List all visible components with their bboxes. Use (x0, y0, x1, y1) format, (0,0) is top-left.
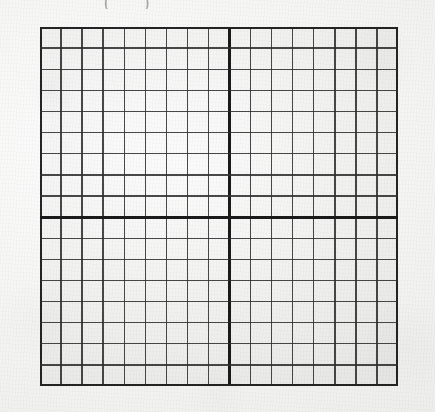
grid-line-vertical (355, 27, 356, 386)
grid-border-top (40, 27, 398, 29)
grid-line-vertical (271, 27, 272, 386)
grid-line-horizontal (40, 69, 398, 70)
x-axis-line (40, 216, 398, 219)
grid-line-horizontal (40, 322, 398, 323)
grid-border-bottom (40, 384, 398, 386)
grid-line-horizontal (40, 280, 398, 281)
grid-line-horizontal (40, 111, 398, 112)
grid-line-vertical (334, 27, 335, 386)
grid-line-vertical (313, 27, 314, 386)
grid-line-horizontal (40, 301, 398, 302)
grid-line-vertical (292, 27, 293, 386)
grid-line-vertical (124, 27, 125, 386)
grid-line-vertical (145, 27, 146, 386)
grid-line-horizontal (40, 343, 398, 344)
coordinate-grid-lines (40, 27, 398, 386)
grid-line-horizontal (40, 90, 398, 91)
grid-line-horizontal (40, 132, 398, 133)
grid-line-horizontal (40, 238, 398, 239)
grid-line-vertical (81, 27, 82, 386)
grid-border-left (40, 27, 42, 386)
grid-line-vertical (250, 27, 251, 386)
grid-line-horizontal (40, 47, 398, 48)
grid-line-horizontal (40, 259, 398, 260)
grid-line-horizontal (40, 153, 398, 154)
grid-line-vertical (60, 27, 61, 386)
grid-line-vertical (102, 27, 103, 386)
coordinate-grid[interactable] (40, 27, 398, 386)
y-axis-line (228, 27, 231, 386)
grid-line-vertical (208, 27, 209, 386)
grid-line-vertical (376, 27, 377, 386)
grid-line-vertical (166, 27, 167, 386)
top-edge-faint-mark: ( ) (104, 0, 168, 9)
grid-line-horizontal (40, 174, 398, 175)
grid-border-right (396, 27, 398, 386)
grid-line-horizontal (40, 195, 398, 196)
grid-line-vertical (187, 27, 188, 386)
grid-line-horizontal (40, 364, 398, 365)
